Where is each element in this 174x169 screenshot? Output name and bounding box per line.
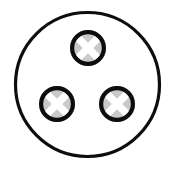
background xyxy=(0,0,174,169)
diagram-canvas xyxy=(0,0,174,169)
three-node-circular-symbol xyxy=(0,0,174,169)
